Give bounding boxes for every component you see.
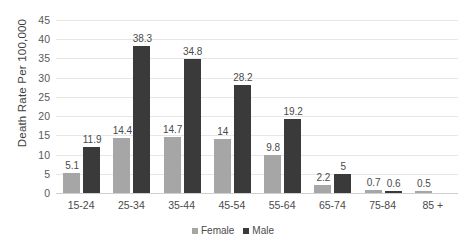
bar-male[interactable] <box>83 147 100 193</box>
bar-group: 1428.2 <box>210 20 254 193</box>
legend-swatch-icon <box>192 228 198 234</box>
x-axis-tick-label: 85 + <box>403 198 463 212</box>
legend-item-male[interactable]: Male <box>243 226 274 236</box>
bar-value-label: 38.3 <box>127 33 157 44</box>
y-axis-tick-label: 10 <box>26 150 50 160</box>
y-axis-tick-label: 20 <box>26 111 50 121</box>
bar-female[interactable] <box>264 155 281 193</box>
bar-female[interactable] <box>314 185 331 193</box>
y-axis-tick-label: 35 <box>26 53 50 63</box>
bar-female[interactable] <box>164 137 181 194</box>
bar-male[interactable] <box>184 59 201 193</box>
y-axis-tick-label: 0 <box>26 188 50 198</box>
bar-group: 5.111.9 <box>59 20 103 193</box>
bar-value-label: 5 <box>328 161 358 172</box>
bar-group: 0.5 <box>411 20 455 193</box>
bar-male[interactable] <box>334 174 351 193</box>
bar-female[interactable] <box>113 138 130 193</box>
x-axis-tick-labels: 15-2425-3435-4445-5455-6465-7475-8485 + <box>56 198 458 214</box>
bar-group: 14.438.3 <box>109 20 153 193</box>
y-axis-tick-label: 5 <box>26 169 50 179</box>
bar-groups: 5.111.914.438.314.734.81428.29.819.22.25… <box>56 20 458 193</box>
bar-male[interactable] <box>385 191 402 193</box>
bar-value-label: 0.5 <box>409 178 439 189</box>
bar-group: 14.734.8 <box>160 20 204 193</box>
bar-female[interactable] <box>63 173 80 193</box>
legend-swatch-icon <box>243 228 249 234</box>
legend-label: Male <box>252 226 274 236</box>
legend: FemaleMale <box>0 226 466 236</box>
bar-male[interactable] <box>284 119 301 193</box>
y-axis-tick-label: 15 <box>26 130 50 140</box>
y-axis-tick-labels: 454035302520151050 <box>26 20 50 193</box>
legend-label: Female <box>201 226 234 236</box>
bar-female[interactable] <box>415 191 432 193</box>
gridline <box>56 193 458 194</box>
bar-value-label: 11.9 <box>77 134 107 145</box>
bar-value-label: 34.8 <box>178 46 208 57</box>
y-axis-tick-label: 40 <box>26 34 50 44</box>
bar-chart: Death Rate Per 100,000 45403530252015105… <box>0 0 466 248</box>
bar-value-label: 0.6 <box>379 178 409 189</box>
y-axis-tick-label: 25 <box>26 92 50 102</box>
bar-group: 2.25 <box>310 20 354 193</box>
bar-value-label: 19.2 <box>278 106 308 117</box>
bar-female[interactable] <box>214 139 231 193</box>
y-axis-tick-label: 45 <box>26 15 50 25</box>
bar-male[interactable] <box>234 85 251 193</box>
legend-item-female[interactable]: Female <box>192 226 234 236</box>
bar-value-label: 28.2 <box>228 72 258 83</box>
bar-male[interactable] <box>133 46 150 193</box>
plot-area: 5.111.914.438.314.734.81428.29.819.22.25… <box>56 20 458 193</box>
bar-female[interactable] <box>365 190 382 193</box>
y-axis-tick-label: 30 <box>26 73 50 83</box>
bar-group: 9.819.2 <box>260 20 304 193</box>
bar-group: 0.70.6 <box>361 20 405 193</box>
